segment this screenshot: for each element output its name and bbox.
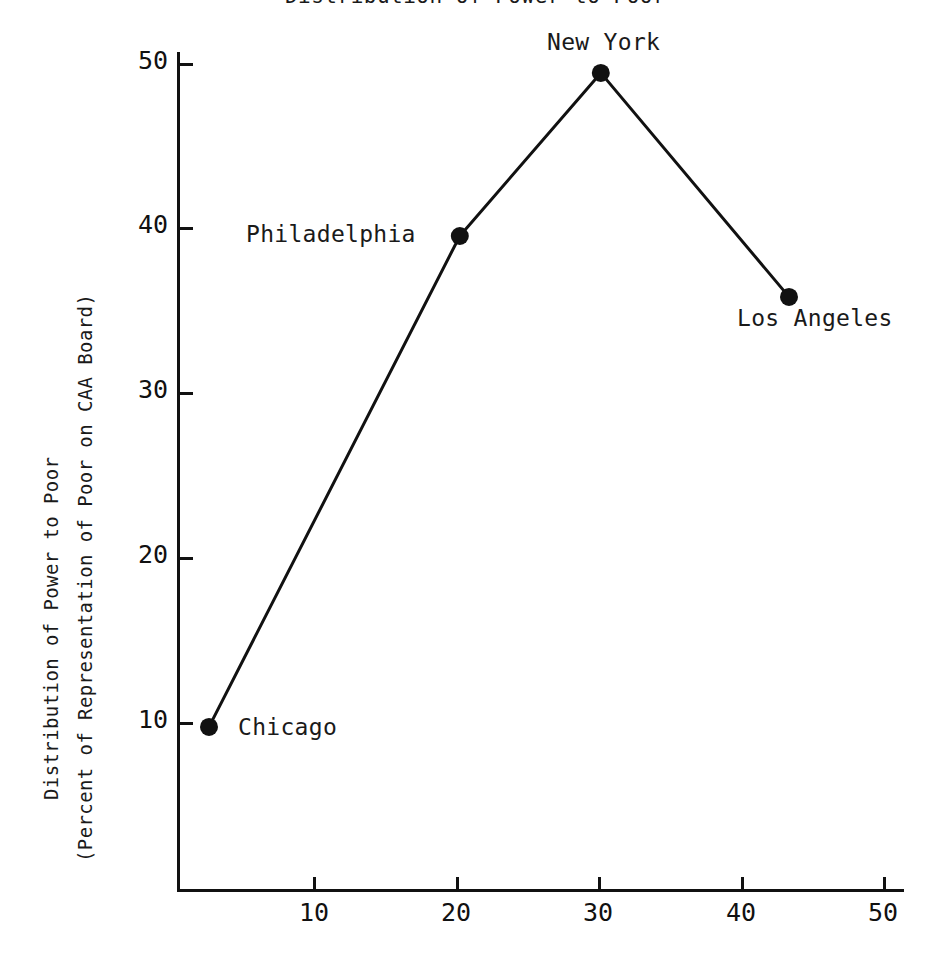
data-point-los-angeles: [780, 288, 798, 306]
data-point-philadelphia: [451, 227, 469, 245]
point-label-los-angeles: Los Angeles: [737, 305, 893, 331]
series-polyline: [209, 73, 789, 727]
series-markers: [200, 64, 798, 736]
point-label-chicago: Chicago: [238, 714, 337, 740]
point-label-philadelphia: Philadelphia: [246, 221, 416, 247]
data-point-chicago: [200, 718, 218, 736]
point-label-new-york: New York: [547, 29, 660, 55]
data-series-layer: [0, 0, 951, 961]
chart-figure: Distribution of Power to Poor Distributi…: [0, 0, 951, 961]
data-point-new-york: [592, 64, 610, 82]
